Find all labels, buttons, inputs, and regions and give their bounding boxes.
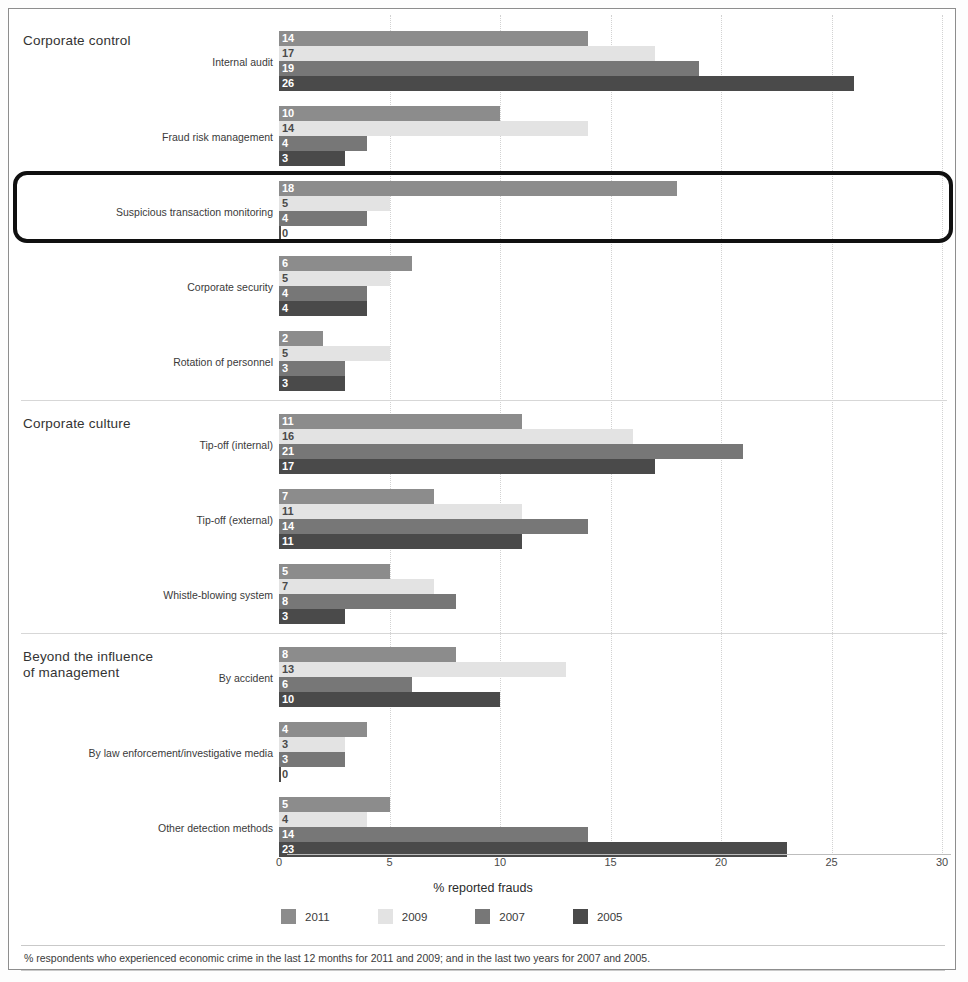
x-tick-0: 0	[264, 856, 294, 868]
legend-label-2009: 2009	[402, 911, 428, 923]
bar-2009: 17	[279, 46, 655, 61]
bar-value-label: 17	[282, 460, 294, 473]
bar-2011: 5	[279, 797, 390, 812]
bar-2011: 4	[279, 722, 367, 737]
bar-value-label: 4	[282, 287, 288, 300]
bar-value-label: 11	[282, 415, 294, 428]
bar-value-label: 3	[282, 362, 288, 375]
bar-value-label: 10	[282, 693, 294, 706]
x-tick-30: 30	[927, 856, 957, 868]
bar-value-label: 3	[282, 738, 288, 751]
bar-2005: 10	[279, 692, 500, 707]
legend-label-2011: 2011	[305, 911, 330, 923]
chart-plot-area: Corporate controlInternal audit14171926F…	[9, 9, 957, 971]
chart-footnote: % respondents who experienced economic c…	[21, 945, 945, 971]
bar-2005: 26	[279, 76, 854, 91]
bar-2011: 2	[279, 331, 323, 346]
legend-swatch-2007	[475, 909, 490, 924]
category-label: Internal audit	[23, 56, 273, 68]
bar-2009: 4	[279, 812, 367, 827]
bar-2007: 3	[279, 361, 345, 376]
section-title: Corporate culture	[23, 416, 131, 432]
x-tick-20: 20	[706, 856, 736, 868]
category-label: Corporate security	[23, 281, 273, 293]
bar-2011: 10	[279, 106, 500, 121]
bar-2009: 5	[279, 346, 390, 361]
bar-2011: 8	[279, 647, 456, 662]
bar-value-label: 3	[282, 377, 288, 390]
bar-value-label: 0	[282, 768, 288, 781]
bar-2009: 11	[279, 504, 522, 519]
bar-2009: 16	[279, 429, 633, 444]
bar-2009: 7	[279, 579, 434, 594]
category-label: Tip-off (external)	[23, 514, 273, 526]
bar-2007: 14	[279, 827, 588, 842]
bar-value-label: 21	[282, 445, 294, 458]
bar-2011: 7	[279, 489, 434, 504]
x-tick-15: 15	[596, 856, 626, 868]
footnote-text: % respondents who experienced economic c…	[21, 952, 650, 964]
gridline	[832, 15, 833, 853]
category-label: Rotation of personnel	[23, 356, 273, 368]
chart-frame: Corporate controlInternal audit14171926F…	[8, 8, 956, 970]
bar-value-label: 5	[282, 798, 288, 811]
bar-value-label: 4	[282, 137, 288, 150]
bar-value-label: 16	[282, 430, 294, 443]
gridline	[721, 15, 722, 853]
category-label: By accident	[23, 672, 273, 684]
bar-value-label: 4	[282, 723, 288, 736]
bar-value-label: 11	[282, 535, 294, 548]
bar-value-label: 6	[282, 678, 288, 691]
bar-2005: 17	[279, 459, 655, 474]
bar-value-label: 26	[282, 77, 294, 90]
bar-2005: 3	[279, 151, 345, 166]
x-axis-title: % reported frauds	[9, 881, 957, 895]
bar-value-label: 14	[282, 520, 294, 533]
bar-value-label: 8	[282, 648, 288, 661]
bar-value-label: 3	[282, 753, 288, 766]
bar-2005: 3	[279, 376, 345, 391]
gridline	[942, 15, 943, 853]
legend-label-2005: 2005	[597, 911, 623, 923]
bar-value-label: 5	[282, 565, 288, 578]
bar-value-label: 7	[282, 490, 288, 503]
bar-value-label: 8	[282, 595, 288, 608]
legend-item-2011[interactable]: 2011	[281, 909, 330, 924]
bar-value-label: 14	[282, 32, 294, 45]
bar-value-label: 17	[282, 47, 294, 60]
bar-value-label: 3	[282, 152, 288, 165]
bar-value-label: 7	[282, 580, 288, 593]
bar-2011: 14	[279, 31, 588, 46]
bar-2011: 6	[279, 256, 412, 271]
legend-item-2005[interactable]: 2005	[573, 909, 623, 924]
bar-2007: 4	[279, 136, 367, 151]
bar-2009: 3	[279, 737, 345, 752]
bar-2007: 3	[279, 752, 345, 767]
section-title: Corporate control	[23, 33, 131, 49]
bar-2009: 5	[279, 271, 390, 286]
bar-2005: 11	[279, 534, 522, 549]
x-tick-5: 5	[375, 856, 405, 868]
category-label: Other detection methods	[23, 822, 273, 834]
section-divider	[21, 400, 947, 401]
x-tick-25: 25	[817, 856, 847, 868]
x-axis-line	[287, 854, 951, 855]
legend-swatch-2009	[378, 909, 393, 924]
legend-item-2007[interactable]: 2007	[475, 909, 525, 924]
bar-2009: 13	[279, 662, 566, 677]
bar-value-label: 3	[282, 610, 288, 623]
legend-item-2009[interactable]: 2009	[378, 909, 428, 924]
bar-2007: 19	[279, 61, 699, 76]
bar-value-label: 14	[282, 828, 294, 841]
bar-value-label: 19	[282, 62, 294, 75]
bar-2007: 8	[279, 594, 456, 609]
bar-2005: 3	[279, 609, 345, 624]
category-label: Whistle-blowing system	[23, 589, 273, 601]
section-divider	[21, 633, 947, 634]
bar-value-label: 6	[282, 257, 288, 270]
bar-value-label: 14	[282, 122, 294, 135]
legend-swatch-2011	[281, 909, 296, 924]
bar-2005: 0	[279, 767, 281, 782]
bar-value-label: 4	[282, 302, 288, 315]
bar-2011: 5	[279, 564, 390, 579]
